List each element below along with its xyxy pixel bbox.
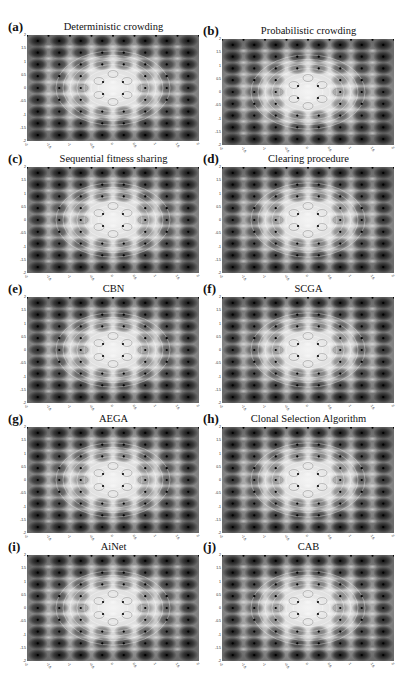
x-tick-label: 1.5 (369, 274, 375, 280)
x-tick-label: -2 (24, 142, 29, 147)
x-tick-label: 0 (305, 274, 309, 278)
y-tick-label: -1.5 (203, 388, 221, 392)
y-tick-label: -1.5 (8, 388, 26, 392)
y-tick-label: -1 (203, 505, 221, 509)
x-tick-label: -1 (67, 142, 72, 147)
x-tick-label: -2 (24, 404, 29, 409)
x-tick-label: -2 (219, 274, 224, 279)
x-tick-label: 0 (305, 146, 309, 150)
y-tick-label: 0 (203, 348, 221, 352)
y-tick-label: 0.5 (203, 335, 221, 339)
y-tick-label: -2 (8, 401, 26, 405)
x-tick-label: -0.5 (283, 662, 289, 669)
y-tick-label: 0.5 (8, 205, 26, 209)
y-tick-label: 0.5 (203, 593, 221, 597)
x-tick-label: 1 (348, 534, 352, 538)
x-tick-label: -1 (262, 534, 267, 539)
y-tick-label: -0.5 (8, 491, 26, 495)
x-tick-label: 0.5 (131, 404, 137, 410)
y-tick-label: -2 (203, 401, 221, 405)
panel-title: Clearing procedure (221, 153, 396, 164)
y-tick-label: -0.5 (203, 231, 221, 235)
y-tick-label: 1 (8, 60, 26, 64)
panel-title: Sequential fitness sharing (26, 153, 201, 164)
y-tick-label: 1.5 (8, 178, 26, 182)
y-tick-label: 1.5 (203, 50, 221, 54)
x-tick-label: 0.5 (326, 662, 332, 668)
y-tick-label: -1.5 (203, 130, 221, 134)
contour-plot (222, 297, 394, 403)
y-tick-label: 2 (8, 165, 26, 169)
y-tick-label: 0 (203, 606, 221, 610)
y-tick-label: 0.5 (203, 205, 221, 209)
subplot-panel: (f)SCGA 21.510.50-0.5-1-1.5-2-2-1.5-1-0.… (195, 281, 400, 410)
y-tick-label: -2 (203, 531, 221, 535)
contour-plot (222, 39, 394, 145)
y-tick-label: -2 (203, 143, 221, 147)
x-tick-label: -0.5 (88, 142, 94, 149)
subplot-panel: (a)Deterministic crowding 21.510.50-0.5-… (0, 19, 205, 148)
y-tick-label: -1.5 (203, 518, 221, 522)
y-tick-label: -1 (8, 375, 26, 379)
y-tick-label: 0 (203, 478, 221, 482)
x-tick-label: 0 (110, 274, 114, 278)
y-tick-label: 0.5 (203, 77, 221, 81)
x-tick-label: 1 (348, 662, 352, 666)
y-tick-label: -0.5 (8, 361, 26, 365)
x-tick-label: 1 (348, 146, 352, 150)
x-tick-label: -1 (262, 404, 267, 409)
y-tick-label: -1 (203, 375, 221, 379)
x-tick-label: 0 (305, 662, 309, 666)
contour-plot (222, 167, 394, 273)
y-tick-label: 2 (8, 425, 26, 429)
x-tick-label: -1 (262, 662, 267, 667)
x-tick-label: 2 (391, 662, 395, 666)
x-tick-label: 1 (153, 274, 157, 278)
y-tick-label: 1 (8, 580, 26, 584)
y-tick-label: 1 (8, 322, 26, 326)
x-tick-label: -1.5 (240, 662, 246, 669)
y-tick-label: -1.5 (8, 258, 26, 262)
subplot-panel: (g)AEGA 21.510.50-0.5-1-1.5-2-2-1.5-1-0.… (0, 411, 205, 540)
x-tick-label: 0 (110, 404, 114, 408)
y-tick-label: -1.5 (8, 646, 26, 650)
contour-plot (222, 427, 394, 533)
contour-plot (27, 427, 199, 533)
contour-plot (27, 297, 199, 403)
y-tick-label: 1.5 (203, 566, 221, 570)
y-tick-label: 1 (203, 192, 221, 196)
x-tick-label: 1 (348, 404, 352, 408)
x-tick-label: 0 (305, 534, 309, 538)
x-tick-label: -1 (67, 404, 72, 409)
x-tick-label: 2 (391, 274, 395, 278)
subplot-panel: (i)AiNet 21.510.50-0.5-1-1.5-2-2-1.5-1-0… (0, 539, 205, 668)
x-tick-label: 0.5 (131, 274, 137, 280)
x-tick-label: 0.5 (326, 274, 332, 280)
y-tick-label: 1.5 (8, 566, 26, 570)
y-tick-label: -1.5 (8, 518, 26, 522)
x-tick-label: -1.5 (45, 142, 51, 149)
y-tick-label: 2 (8, 33, 26, 37)
y-tick-label: -2 (8, 271, 26, 275)
subplot-panel: (d)Clearing procedure 21.510.50-0.5-1-1.… (195, 151, 400, 280)
x-tick-label: 2 (391, 146, 395, 150)
y-tick-label: 2 (203, 37, 221, 41)
y-tick-label: -0.5 (203, 619, 221, 623)
subplot-panel: (h)Clonal Selection Algorithm 21.510.50-… (195, 411, 400, 540)
contour-plot (222, 555, 394, 661)
x-tick-label: -2 (24, 274, 29, 279)
x-tick-label: -1 (67, 662, 72, 667)
y-tick-label: 1.5 (203, 438, 221, 442)
x-tick-label: 1 (153, 404, 157, 408)
y-tick-label: -1.5 (203, 646, 221, 650)
x-tick-label: -1 (67, 534, 72, 539)
y-tick-label: 1.5 (8, 308, 26, 312)
y-tick-label: -0.5 (8, 619, 26, 623)
x-tick-label: -1.5 (45, 662, 51, 669)
subplot-panel: (e)CBN 21.510.50-0.5-1-1.5-2-2-1.5-1-0.5… (0, 281, 205, 410)
y-tick-label: 0 (8, 348, 26, 352)
y-tick-label: 1 (203, 452, 221, 456)
y-tick-label: 0 (8, 478, 26, 482)
y-tick-label: 1.5 (203, 178, 221, 182)
panel-title: SCGA (221, 283, 396, 294)
